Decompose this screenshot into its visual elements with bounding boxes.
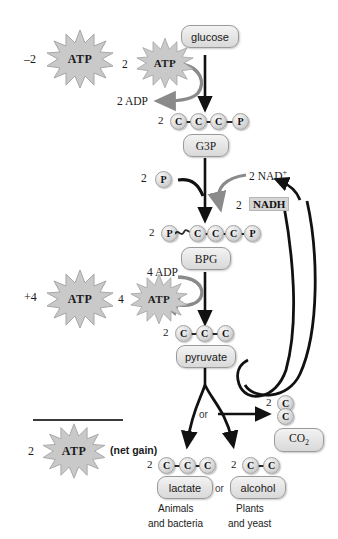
atp-burst-glucose-step: ATP — [136, 36, 194, 90]
lactate-bead-c3: C — [199, 457, 216, 474]
nadh-prefix: 2 — [236, 199, 242, 211]
arrow-nad-to-nadh — [218, 175, 246, 202]
atp-payoff-value: +4 — [24, 290, 37, 305]
bpg-box: BPG — [181, 247, 231, 270]
fork-or-label: or — [199, 409, 208, 420]
lactate-bead-c1: C — [158, 457, 175, 474]
g3p-bead-c1: C — [170, 113, 187, 130]
bpg-bead-p: P — [244, 225, 261, 242]
pyruvate-box: pyruvate — [176, 345, 236, 368]
atp-glucose-label: ATP — [154, 57, 176, 69]
g3p-box: G3P — [183, 134, 229, 157]
pyruvate-bead-c3: C — [217, 325, 234, 342]
atp-investment-label: ATP — [68, 52, 92, 67]
nad-plus-superscript: + — [283, 168, 288, 177]
alcohol-box: alcohol — [230, 476, 286, 499]
atp-burst-investment: ATP — [46, 28, 114, 90]
arrow-phosphate-input — [178, 180, 203, 196]
alcohol-organisms-line2: and yeast — [228, 518, 271, 529]
bpg-prefix: 2 — [149, 226, 155, 238]
nad-label: 2 NAD+ — [249, 168, 287, 182]
pyruvate-label: pyruvate — [185, 351, 227, 363]
lactate-organisms-line1: Animals — [158, 503, 194, 514]
bpg-bead-c3: C — [225, 225, 242, 242]
atp-payoff-label: ATP — [68, 292, 92, 307]
g3p-label: G3P — [196, 140, 216, 152]
co2-carbon-prefix: 2 — [266, 396, 272, 408]
atp-net-value: 2 — [28, 444, 34, 459]
atp-burst-bpg-step: ATP — [130, 272, 188, 326]
atp-investment-value: –2 — [24, 52, 36, 67]
pyruvate-bead-c1: C — [175, 325, 192, 342]
atp-burst-payoff: ATP — [46, 268, 114, 330]
pyruvate-prefix: 2 — [163, 326, 169, 338]
phosphate-prefix: 2 — [141, 172, 147, 184]
nadh-label: NADH — [249, 197, 289, 211]
ledger-divider — [33, 419, 123, 421]
atp-bpg-label: ATP — [148, 293, 170, 305]
lactate-box: lactate — [157, 476, 213, 499]
pyruvate-bead-c2: C — [196, 325, 213, 342]
alcohol-organisms-line1: Plants — [236, 503, 264, 514]
lactate-bead-c2: C — [179, 457, 196, 474]
phosphate-bead: P — [155, 171, 172, 188]
lactate-prefix: 2 — [147, 458, 153, 470]
bpg-bead-c2: C — [207, 225, 224, 242]
g3p-bead-p: P — [232, 113, 249, 130]
glycolysis-diagram: –2 ATP +4 ATP 2 ATP (net gain) glucose 2… — [0, 0, 338, 539]
bpg-label: BPG — [195, 253, 217, 265]
g3p-bond-line — [180, 121, 238, 123]
adp-investment-label: 2 ADP — [117, 95, 148, 107]
net-gain-note: (net gain) — [110, 444, 157, 456]
co2-label: CO2 — [289, 432, 309, 447]
bpg-bead-c1: C — [189, 225, 206, 242]
co2-bead-c-bottom: C — [277, 408, 294, 425]
co2-box: CO2 — [274, 428, 324, 452]
product-or-label: or — [215, 483, 224, 494]
g3p-bead-c3: C — [210, 113, 227, 130]
alcohol-bead-c2: C — [263, 457, 280, 474]
atp-glucose-count: 2 — [122, 58, 128, 70]
atp-burst-net: ATP — [42, 422, 106, 480]
alcohol-prefix: 2 — [231, 458, 237, 470]
alcohol-label: alcohol — [241, 482, 276, 494]
alcohol-bead-c1: C — [242, 457, 259, 474]
glucose-label: glucose — [191, 31, 229, 43]
co2-subscript: 2 — [305, 439, 309, 448]
g3p-prefix: 2 — [158, 114, 164, 126]
g3p-bead-c2: C — [190, 113, 207, 130]
nad-text: 2 NAD — [249, 170, 283, 182]
atp-net-label: ATP — [62, 444, 86, 459]
atp-bpg-count: 4 — [118, 293, 124, 305]
arrow-pyruvate-fork — [188, 365, 232, 440]
lactate-organisms-line2: and bacteria — [148, 518, 203, 529]
lactate-label: lactate — [169, 482, 201, 494]
co2-text: CO — [289, 432, 305, 444]
